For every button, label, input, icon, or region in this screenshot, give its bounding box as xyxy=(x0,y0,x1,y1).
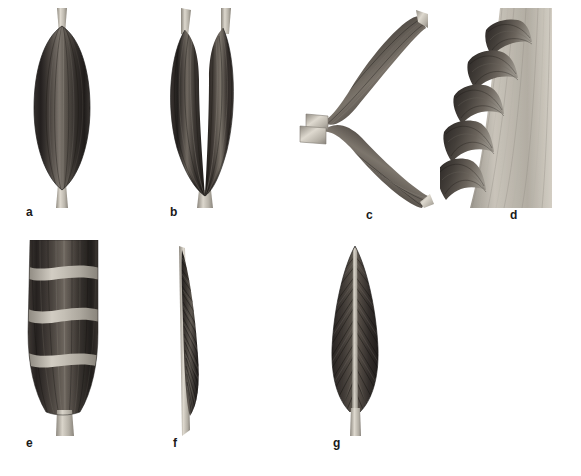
polygastric-muscle-icon xyxy=(14,240,114,436)
figure-bicipital-muscle xyxy=(155,8,255,208)
distal-tendon xyxy=(56,410,74,436)
unipennate-muscle-icon xyxy=(160,244,230,436)
figure-label-f: f xyxy=(173,437,177,449)
figure-label-e: e xyxy=(26,437,33,449)
lower-belly xyxy=(322,125,428,208)
figure-digitated-muscle xyxy=(440,8,572,208)
figure-polygastric-muscle xyxy=(14,240,114,436)
figure-digastric-muscle xyxy=(288,8,436,208)
muscle-belly xyxy=(34,26,90,190)
figure-label-b: b xyxy=(170,206,177,218)
distal-tendon xyxy=(350,408,361,436)
fibrous-loop xyxy=(300,126,326,144)
muscle-architecture-plate: a xyxy=(0,0,581,476)
figure-bipennate-muscle xyxy=(310,244,400,436)
bipennate-muscle-icon xyxy=(310,244,400,436)
figure-unipennate-muscle xyxy=(160,244,230,436)
distal-tendon xyxy=(197,190,213,208)
fusiform-muscle-icon xyxy=(18,8,106,208)
figure-label-c: c xyxy=(366,209,373,221)
figure-label-d: d xyxy=(510,209,517,221)
central-tendon xyxy=(352,248,358,412)
figure-label-g: g xyxy=(333,437,340,449)
figure-label-a: a xyxy=(26,206,33,218)
bicipital-muscle-icon xyxy=(155,8,255,208)
figure-fusiform-muscle xyxy=(18,8,106,208)
digitated-muscle-icon xyxy=(440,8,572,208)
upper-belly xyxy=(322,16,426,125)
digastric-muscle-icon xyxy=(288,8,436,208)
